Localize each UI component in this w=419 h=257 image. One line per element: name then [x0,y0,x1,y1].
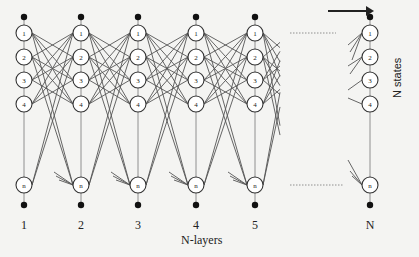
state-node-2: 2 [362,49,378,65]
layer-label-3: 3 [128,218,148,233]
state-node-n: n [73,177,89,193]
states-axis-label: N states [391,58,403,98]
state-nodes: 1234n1234n1234n1234n1234n1234n [16,25,378,193]
state-node-3: 3 [73,72,89,88]
svg-text:1: 1 [368,30,372,38]
edge-stub [348,98,362,104]
state-node-1: 1 [73,25,89,41]
svg-text:1: 1 [253,30,257,38]
state-node-4: 4 [73,96,89,112]
svg-text:3: 3 [136,77,140,85]
state-node-1: 1 [16,25,32,41]
state-node-2: 2 [73,49,89,65]
edge-stub [348,57,362,66]
bottom-dot [193,202,199,208]
edge [263,107,280,185]
svg-text:n: n [253,182,257,190]
state-node-2: 2 [188,49,204,65]
top-dot [78,14,84,20]
top-dot [135,14,141,20]
state-node-n: n [188,177,204,193]
svg-text:n: n [368,182,372,190]
svg-text:2: 2 [22,54,26,62]
state-node-3: 3 [130,72,146,88]
right-arrow-icon [328,6,374,16]
state-node-4: 4 [362,96,378,112]
state-node-4: 4 [247,96,263,112]
svg-text:2: 2 [136,54,140,62]
state-node-n: n [16,177,32,193]
top-dot [21,14,27,20]
svg-text:n: n [136,182,140,190]
svg-text:n: n [22,182,26,190]
svg-text:4: 4 [22,101,26,109]
bottom-dot [367,202,373,208]
state-node-2: 2 [16,49,32,65]
layer-label-4: 4 [186,218,206,233]
bottom-dot [78,202,84,208]
svg-text:n: n [79,182,83,190]
state-node-4: 4 [188,96,204,112]
state-node-2: 2 [247,49,263,65]
svg-text:4: 4 [368,101,372,109]
state-node-n: n [362,177,378,193]
edge-stub [348,160,362,185]
svg-text:2: 2 [194,54,198,62]
svg-text:3: 3 [194,77,198,85]
top-dot [252,14,258,20]
state-node-1: 1 [188,25,204,41]
svg-text:2: 2 [368,54,372,62]
state-node-1: 1 [247,25,263,41]
svg-text:2: 2 [79,54,83,62]
edge-stub [352,176,362,185]
svg-text:4: 4 [253,101,257,109]
state-node-n: n [130,177,146,193]
layer-label-5: 5 [245,218,265,233]
bottom-dot [252,202,258,208]
state-node-4: 4 [130,96,146,112]
state-node-3: 3 [188,72,204,88]
svg-text:n: n [194,182,198,190]
state-node-2: 2 [130,49,146,65]
svg-text:4: 4 [79,101,83,109]
svg-text:4: 4 [136,101,140,109]
svg-text:4: 4 [194,101,198,109]
svg-text:1: 1 [22,30,26,38]
svg-text:1: 1 [136,30,140,38]
svg-text:3: 3 [79,77,83,85]
bottom-dot [135,202,141,208]
svg-text:3: 3 [368,77,372,85]
svg-text:1: 1 [194,30,198,38]
layers-axis-label: N-layers [181,233,222,248]
state-node-3: 3 [247,72,263,88]
edge-stub [348,80,362,90]
state-node-3: 3 [362,72,378,88]
svg-text:3: 3 [253,77,257,85]
svg-text:1: 1 [79,30,83,38]
layer-label-2: 2 [71,218,91,233]
top-dot [193,14,199,20]
layer-label-N: N [360,218,380,233]
svg-text:2: 2 [253,54,257,62]
layer-label-1: 1 [14,218,34,233]
svg-text:3: 3 [22,77,26,85]
bottom-dot [21,202,27,208]
state-node-3: 3 [16,72,32,88]
state-node-n: n [247,177,263,193]
state-node-4: 4 [16,96,32,112]
edge [263,92,280,185]
state-node-1: 1 [362,25,378,41]
state-node-1: 1 [130,25,146,41]
network-diagram: 1234n1234n1234n1234n1234n1234n [0,0,419,257]
